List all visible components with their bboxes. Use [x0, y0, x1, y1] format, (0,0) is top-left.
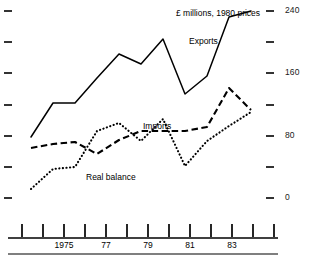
x-axis-year-1975: 1975: [43, 240, 85, 250]
x-axis-year-77: 77: [85, 240, 127, 250]
right-axis-label-160: 160: [285, 67, 299, 77]
right-axis-label-80: 80: [285, 130, 295, 140]
chart-footnote: [70, 256, 250, 264]
x-axis-year-83: 83: [211, 240, 253, 250]
series-label-real-balance: Real balance: [86, 172, 136, 182]
series-label-exports: Exports: [189, 36, 218, 46]
right-axis-label-240: 240: [285, 5, 299, 15]
right-axis-label-0: 0: [285, 192, 290, 202]
chart-figure: £ millions, 1980 prices: [0, 0, 310, 264]
right-axis-ticks: [266, 11, 274, 198]
series-line-exports: [31, 11, 251, 137]
plot-area: [0, 0, 310, 264]
x-axis-year-81: 81: [169, 240, 211, 250]
series-line-real-balance: [31, 112, 251, 189]
x-axis-ticks: [22, 224, 274, 237]
series-line-imports: [31, 88, 251, 154]
series-label-imports: Imports: [143, 121, 171, 131]
left-axis-ticks: [4, 11, 12, 198]
x-axis-year-79: 79: [127, 240, 169, 250]
